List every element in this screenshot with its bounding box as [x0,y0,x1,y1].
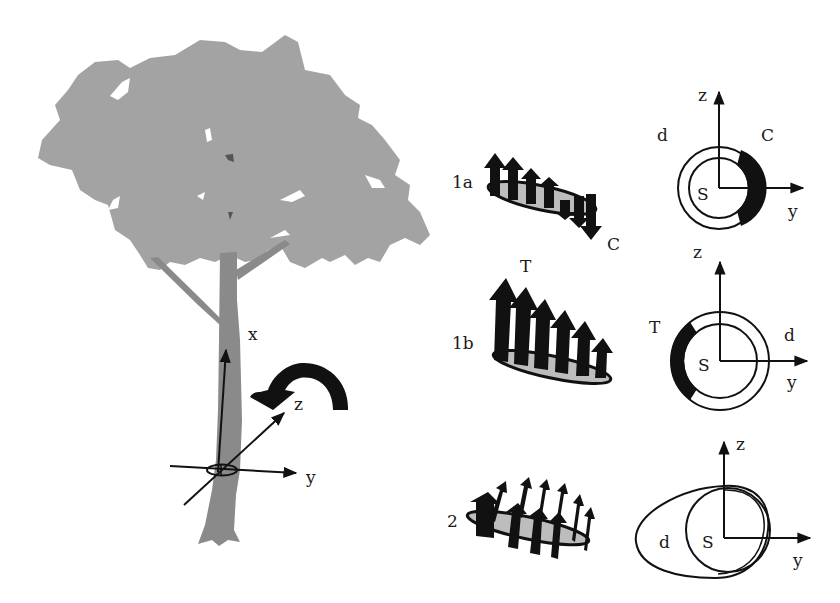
cs1b-y-label: y [786,372,797,392]
cs1a-z-label: z [698,85,707,105]
case-1b-label: 1b [452,333,474,353]
case-1a-stress-disk [484,153,602,240]
tree: x y z [38,35,430,546]
case-1b-stress-label: T [520,256,532,276]
cs2-z-label: z [736,434,745,454]
case-1b-stress-disk [489,278,613,390]
tree-stress-diagram: x y z 1a C [0,0,840,603]
case-2-stress-disk [465,477,595,559]
tree-branch-left [150,257,220,325]
cs1a-y-label: y [787,201,798,221]
cs1a-d-label: d [657,125,668,145]
cs2-s-label: S [702,532,714,552]
case-2: 2 z y S d [447,434,810,578]
cs1a-s-label: S [697,184,709,204]
stress-arrow-up [584,507,595,551]
cs1b-z-label: z [693,242,702,262]
case-1a-cross-section: z y S d C [657,85,803,229]
case-1a-stress-label: C [607,234,620,254]
case-2-label: 2 [447,511,458,531]
case-1b: T 1b z y S d T [452,242,807,410]
tension-zone [671,322,697,400]
cs1a-c-label: C [761,125,774,145]
axis-z-label: z [294,394,303,414]
cs1b-t-label: T [649,317,661,337]
tree-trunk [198,252,242,546]
axis-x-label: x [248,324,258,344]
case-1b-cross-section: z y S d T [649,242,807,410]
cs2-y-label: y [792,550,803,570]
cs2-d-label: d [659,532,670,552]
cs1b-s-label: S [698,355,710,375]
axis-y-label: y [305,467,316,487]
case-1a-label: 1a [452,172,473,192]
cs1b-d-label: d [784,325,795,345]
case-1a: 1a C z y S d [452,85,803,254]
case-2-cross-section: z y S d [636,434,810,578]
tree-crown [38,35,430,270]
